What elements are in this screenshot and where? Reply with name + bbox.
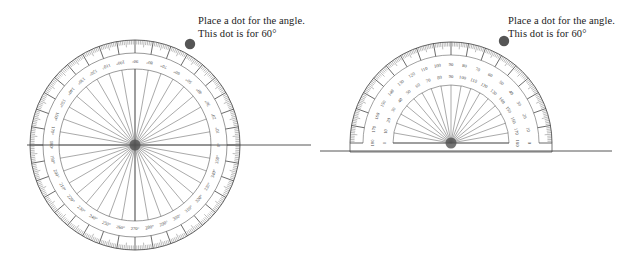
minor-tick bbox=[421, 46, 422, 50]
minor-tick bbox=[224, 192, 228, 194]
major-tick bbox=[117, 236, 119, 249]
minor-tick bbox=[482, 48, 483, 52]
minor-tick bbox=[31, 159, 35, 160]
minor-tick bbox=[89, 235, 91, 239]
minor-tick bbox=[393, 60, 397, 66]
minor-tick bbox=[182, 52, 184, 56]
degree-label: 120° bbox=[88, 68, 98, 77]
protractor-body: 1801701601501401301201101009080706050403… bbox=[350, 42, 552, 152]
center-hub bbox=[446, 138, 457, 149]
minor-tick bbox=[191, 59, 195, 65]
minor-tick bbox=[176, 49, 178, 53]
degree-label: 290° bbox=[159, 220, 169, 228]
minor-tick bbox=[405, 53, 407, 57]
major-tick bbox=[534, 108, 546, 112]
degree-label: 70° bbox=[160, 63, 168, 70]
minor-tick bbox=[154, 244, 155, 248]
minor-tick bbox=[413, 49, 415, 53]
minor-tick bbox=[122, 41, 123, 45]
minor-tick bbox=[113, 243, 114, 247]
degree-label: 60° bbox=[173, 69, 181, 77]
minor-tick bbox=[45, 91, 49, 93]
minor-tick bbox=[96, 48, 98, 52]
major-tick bbox=[68, 215, 76, 225]
minor-tick bbox=[228, 184, 232, 186]
minor-tick bbox=[35, 176, 39, 177]
major-tick bbox=[527, 93, 538, 100]
minor-tick bbox=[197, 224, 200, 228]
outer-scale-label: 20 bbox=[522, 113, 529, 120]
minor-tick bbox=[233, 169, 237, 170]
degree-label: 30° bbox=[204, 99, 212, 107]
major-tick bbox=[386, 66, 394, 76]
minor-tick bbox=[75, 59, 79, 65]
minor-tick bbox=[184, 53, 186, 57]
minor-tick bbox=[366, 88, 370, 90]
minor-tick bbox=[233, 168, 237, 169]
minor-tick bbox=[47, 88, 51, 90]
minor-tick bbox=[528, 85, 534, 89]
outer-scale-label: 80 bbox=[462, 63, 468, 69]
minor-tick bbox=[120, 41, 121, 45]
half-circle-protractor-graphic: 1801701601501401301201101009080706050403… bbox=[312, 0, 623, 271]
minor-tick bbox=[31, 161, 35, 162]
minor-tick bbox=[469, 44, 470, 48]
minor-tick bbox=[538, 99, 542, 101]
minor-tick bbox=[191, 58, 194, 62]
minor-tick bbox=[168, 240, 169, 244]
minor-tick bbox=[33, 121, 37, 122]
minor-tick bbox=[78, 229, 80, 233]
minor-tick bbox=[219, 88, 223, 90]
instruction-text-left: Place a dot for the angle. This dot is f… bbox=[198, 14, 305, 40]
inner-scale-label: 60 bbox=[415, 82, 422, 89]
minor-tick bbox=[166, 45, 167, 49]
minor-tick bbox=[115, 244, 116, 248]
minor-tick bbox=[231, 114, 235, 115]
minor-tick bbox=[353, 119, 357, 120]
minor-tick bbox=[104, 241, 105, 245]
minor-tick bbox=[103, 45, 104, 49]
minor-tick bbox=[232, 173, 236, 174]
minor-tick bbox=[87, 51, 89, 55]
minor-tick bbox=[478, 46, 479, 50]
minor-tick bbox=[159, 243, 160, 247]
minor-tick bbox=[111, 43, 112, 47]
minor-tick bbox=[110, 43, 111, 47]
major-tick bbox=[416, 48, 420, 60]
minor-tick bbox=[218, 201, 222, 204]
minor-tick bbox=[354, 113, 358, 114]
minor-tick bbox=[233, 136, 240, 137]
minor-tick bbox=[70, 62, 73, 66]
answer-dot[interactable] bbox=[185, 39, 195, 49]
center-hub bbox=[130, 140, 141, 151]
inner-scale-label: 180 bbox=[515, 140, 520, 148]
minor-tick bbox=[38, 183, 42, 185]
minor-tick bbox=[86, 234, 88, 238]
minor-tick bbox=[46, 89, 50, 91]
minor-tick bbox=[191, 225, 195, 231]
minor-tick bbox=[235, 159, 239, 160]
degree-label: 210° bbox=[58, 182, 67, 192]
major-tick bbox=[226, 127, 239, 129]
minor-tick bbox=[407, 52, 409, 56]
minor-tick bbox=[164, 45, 165, 49]
minor-tick bbox=[543, 112, 547, 113]
major-tick bbox=[99, 46, 103, 58]
major-tick bbox=[205, 78, 215, 86]
minor-tick bbox=[474, 45, 475, 49]
minor-tick bbox=[179, 51, 181, 55]
major-tick bbox=[117, 42, 119, 55]
minor-tick bbox=[35, 114, 39, 115]
major-tick bbox=[32, 127, 45, 129]
minor-tick bbox=[225, 97, 229, 99]
minor-tick bbox=[187, 55, 189, 59]
minor-tick bbox=[37, 107, 41, 109]
minor-tick bbox=[490, 51, 492, 55]
minor-tick bbox=[430, 44, 431, 48]
inner-scale-label: 90 bbox=[449, 74, 454, 79]
minor-tick bbox=[352, 124, 356, 125]
minor-tick bbox=[487, 49, 489, 53]
minor-tick bbox=[76, 228, 79, 232]
minor-tick bbox=[191, 228, 194, 232]
minor-tick bbox=[463, 43, 464, 47]
